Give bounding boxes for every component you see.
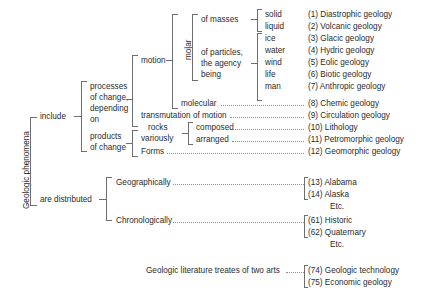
motion-bracket xyxy=(172,14,178,109)
entry-7: (7) Anthropic geology xyxy=(308,81,385,92)
entry-12-text: Geomorphic geology xyxy=(325,147,401,156)
composed-leader xyxy=(233,129,304,130)
entry-6: (6) Biotic geology xyxy=(308,69,371,80)
include-stem xyxy=(74,116,81,117)
entry-13-text: Alabama xyxy=(324,178,356,187)
rocks-line-1: rocks xyxy=(148,122,168,133)
processes-line-4: on xyxy=(90,114,99,125)
chronologically-label: Chronologically xyxy=(116,215,172,226)
products-bracket xyxy=(132,130,138,157)
entry-17: (74) Geologic technology xyxy=(308,265,399,276)
entry-5-text: Eolic geology xyxy=(320,58,369,67)
motion-label: motion xyxy=(141,55,166,66)
agent-water: water xyxy=(265,45,285,56)
branch-are-distributed: are distributed xyxy=(40,194,92,205)
entry-4-text: Hydric geology xyxy=(320,46,374,55)
entry-2: (2) Volcanic geology xyxy=(308,21,382,32)
entry-8: (8) Chemic geology xyxy=(308,98,379,109)
entry-16-number: (62) xyxy=(308,228,323,237)
processes-line-1: processes xyxy=(90,81,127,92)
entry-8-number: (8) xyxy=(308,99,318,108)
entry-13: (13) Alabama xyxy=(308,177,357,188)
molar-bracket xyxy=(192,14,198,81)
entry-2-number: (2) xyxy=(308,22,318,31)
entry-11: (11) Petromorphic geology xyxy=(308,134,404,145)
transmutation-leader xyxy=(230,117,304,118)
geographically-label: Geographically xyxy=(116,177,171,188)
of-masses-bracket xyxy=(257,9,262,32)
entry-14-text: Alaska xyxy=(324,190,349,199)
processes-line-2: of change, xyxy=(90,92,128,103)
of-particles-line-3: being xyxy=(201,69,221,80)
entry-15-number: (61) xyxy=(308,216,323,225)
rocks-line-2: variously xyxy=(141,133,173,144)
are-distributed-stem xyxy=(99,199,106,200)
entry-4-number: (4) xyxy=(308,46,318,55)
of-masses-label: of masses xyxy=(201,14,238,25)
of-particles-line-2: the agency xyxy=(201,58,241,69)
entry-9: (9) Circulation geology xyxy=(308,110,390,121)
arranged-label: arranged xyxy=(196,134,229,145)
entry-10-number: (10) xyxy=(308,123,323,132)
branch-include: include xyxy=(40,111,66,122)
entry-3: (3) Glacic geology xyxy=(308,33,374,44)
entry-17-text: Geologic technology xyxy=(325,266,399,275)
of-particles-line-1: of particles, xyxy=(201,47,243,58)
products-line-2: of change xyxy=(90,142,126,153)
entry-18-number: (75) xyxy=(308,278,323,287)
products-line-1: products xyxy=(90,131,121,142)
entry-14: (14) Alaska xyxy=(308,189,349,200)
entry-11-number: (11) xyxy=(308,135,322,144)
entry-17-number: (74) xyxy=(308,266,323,275)
agent-wind: wind xyxy=(265,57,282,68)
rocks-bracket xyxy=(188,122,193,145)
entry-14-number: (14) xyxy=(308,190,323,199)
include-bracket xyxy=(81,81,87,152)
entry-6-text: Biotic geology xyxy=(320,70,371,79)
agent-life: life xyxy=(265,69,275,80)
entry-1-number: (1) xyxy=(308,10,318,19)
forms-leader xyxy=(167,153,304,154)
entry-16-text: Quaternary xyxy=(325,228,366,237)
entry-4: (4) Hydric geology xyxy=(308,45,374,56)
classification-diagram: Geologic phenomena include are distribut… xyxy=(0,0,429,297)
transmutation-label: transmutation of motion xyxy=(141,110,227,121)
entry-8-text: Chemic geology xyxy=(320,99,379,108)
geographically-leader xyxy=(173,184,304,185)
entry-15-text: Historic xyxy=(325,216,352,225)
are-distributed-bracket xyxy=(106,177,112,221)
entry-7-number: (7) xyxy=(308,82,318,91)
of-particles-bracket xyxy=(257,33,262,101)
agent-ice: ice xyxy=(265,33,275,44)
etc-chronologic: Etc. xyxy=(330,239,344,250)
agent-liquid: liquid xyxy=(265,21,284,32)
entry-10-text: Lithology xyxy=(325,123,358,132)
entry-5: (5) Eolic geology xyxy=(308,57,369,68)
molecular-label: molecular xyxy=(181,98,217,109)
entry-5-number: (5) xyxy=(308,58,318,67)
entry-6-number: (6) xyxy=(308,70,318,79)
entry-11-text: Petromorphic geology xyxy=(324,135,404,144)
processes-bracket xyxy=(132,55,138,127)
entry-10: (10) Lithology xyxy=(308,122,358,133)
agent-solid: solid xyxy=(265,9,282,20)
entry-3-number: (3) xyxy=(308,34,318,43)
agent-man: man xyxy=(265,81,281,92)
entry-1: (1) Diastrophic geology xyxy=(308,9,392,20)
entry-18-text: Economic geology xyxy=(325,278,392,287)
entry-2-text: Volcanic geology xyxy=(320,22,381,31)
arranged-leader xyxy=(232,141,304,142)
entry-7-text: Anthropic geology xyxy=(320,82,386,91)
etc-geographic: Etc. xyxy=(330,201,344,212)
entry-9-text: Circulation geology xyxy=(320,111,390,120)
composed-label: composed xyxy=(196,122,234,133)
entry-12: (12) Geomorphic geology xyxy=(308,146,400,157)
chronologically-leader xyxy=(173,222,304,223)
molecular-leader xyxy=(221,105,304,106)
forms-label: Forms xyxy=(141,146,164,157)
entry-3-text: Glacic geology xyxy=(320,34,374,43)
entry-1-text: Diastrophic geology xyxy=(320,10,392,19)
literature-label: Geologic literature treates of two arts xyxy=(146,265,280,276)
entry-18: (75) Economic geology xyxy=(308,277,392,288)
entry-9-number: (9) xyxy=(308,111,318,120)
